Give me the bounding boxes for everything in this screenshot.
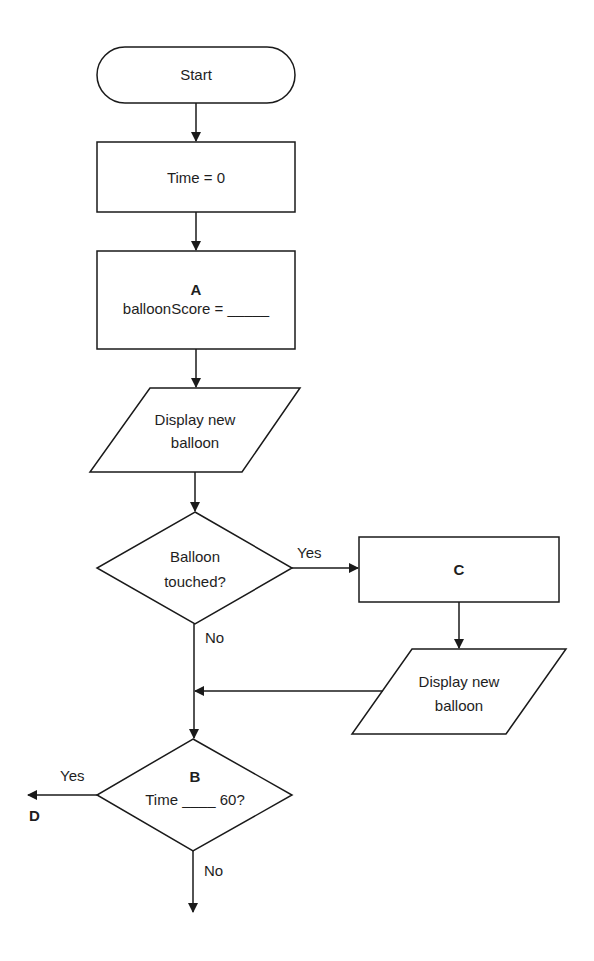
init-time-label: Time = 0 — [97, 168, 295, 187]
display-balloon-io-1 — [90, 388, 300, 472]
decision-touched-line2: touched? — [95, 572, 295, 591]
decision-b-yes: Yes — [60, 766, 84, 785]
display2-line2: balloon — [359, 696, 559, 715]
decision-b-label: Time ____ 60? — [95, 790, 295, 809]
step-c-tag: C — [359, 560, 559, 579]
decision-touched-yes: Yes — [297, 543, 321, 562]
display1-line2: balloon — [95, 433, 295, 452]
display2-line1: Display new — [359, 672, 559, 691]
decision-touched-no: No — [205, 628, 224, 647]
decision-b-yes-target: D — [29, 806, 40, 825]
decision-touched-line1: Balloon — [95, 547, 295, 566]
step-a-tag: A — [97, 280, 295, 299]
flowchart-canvas — [0, 0, 594, 961]
step-a-label: balloonScore = _____ — [97, 299, 295, 318]
decision-b-no: No — [204, 861, 223, 880]
balloon-touched-decision — [97, 512, 292, 624]
display1-line1: Display new — [95, 410, 295, 429]
start-label: Start — [97, 65, 295, 84]
decision-b-tag: B — [95, 767, 295, 786]
display-balloon-io-2 — [352, 649, 566, 734]
